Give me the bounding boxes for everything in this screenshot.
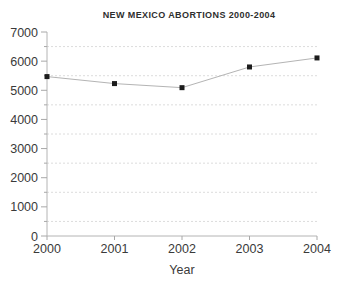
x-tick-label: 2004 <box>303 242 331 256</box>
y-tick-label: 4000 <box>10 113 38 127</box>
x-axis-title: Year <box>47 263 317 277</box>
data-point-marker <box>315 55 320 60</box>
x-tick-label: 2003 <box>236 242 264 256</box>
x-tick-label: 2002 <box>168 242 196 256</box>
x-tick-label: 2001 <box>101 242 129 256</box>
x-tick-label: 2000 <box>33 242 61 256</box>
y-tick-label: 5000 <box>10 84 38 98</box>
y-tick-label: 3000 <box>10 142 38 156</box>
data-point-marker <box>112 81 117 86</box>
y-tick-label: 1000 <box>10 200 38 214</box>
y-tick-label: 2000 <box>10 171 38 185</box>
line-chart: 0100020003000400050006000700020002001200… <box>0 0 347 295</box>
chart-window: NEW MEXICO ABORTIONS 2000-2004 010002000… <box>0 0 347 295</box>
data-point-marker <box>45 74 50 79</box>
data-series-line <box>47 58 317 88</box>
y-tick-label: 7000 <box>10 26 38 40</box>
data-point-marker <box>180 85 185 90</box>
data-point-marker <box>247 64 252 69</box>
y-tick-label: 6000 <box>10 55 38 69</box>
